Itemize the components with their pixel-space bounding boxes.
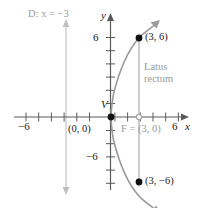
x-tick-label-6: 6 <box>172 121 178 132</box>
y-tick-label-neg6: −6 <box>86 151 98 162</box>
upper-latus-point-label: (3, 6) <box>145 32 168 43</box>
directrix-line <box>63 19 70 195</box>
x-axis-label: x <box>185 121 190 132</box>
focus-point-marker <box>136 114 141 119</box>
upper-latus-point-marker <box>136 35 143 42</box>
vertex-coordinates-label: (0, 0) <box>68 124 91 135</box>
latus-rectum-label-line1: Latus <box>144 61 167 73</box>
lower-latus-point-label: (3, −6) <box>145 176 174 187</box>
y-tick-label-6: 6 <box>93 32 99 43</box>
latus-rectum-label-line2: rectum <box>144 73 173 85</box>
lower-latus-point-marker <box>136 179 143 186</box>
vertex-marker-label: V <box>101 99 108 110</box>
y-axis-label: y <box>101 10 106 21</box>
directrix-label: D: x = −3 <box>28 9 69 20</box>
parabola-figure: D: x = −3 y 6 −6 −6 6 x V (0, 0) F = (3,… <box>0 0 205 208</box>
x-tick-label-neg6: −6 <box>18 121 30 132</box>
vertex-point-marker <box>108 114 115 121</box>
focus-label: F = (3, 0) <box>121 124 161 135</box>
x-axis <box>14 113 189 122</box>
